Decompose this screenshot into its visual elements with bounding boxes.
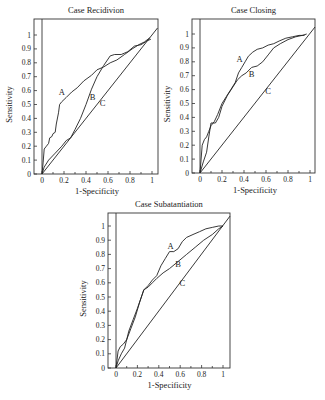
y-tick-label: 1 xyxy=(27,31,31,40)
x-tick-label: 0 xyxy=(198,175,202,184)
x-tick-label: 0.2 xyxy=(133,370,143,379)
y-tick-label: 0 xyxy=(101,364,105,373)
y-tick-label: 0.9 xyxy=(96,236,106,245)
curve-label-c: C xyxy=(100,98,106,108)
x-tick-label: 0.2 xyxy=(217,175,227,184)
roc-chart-3: Case Subatantiation00.10.20.30.40.50.60.… xyxy=(78,199,230,390)
x-tick-label: 0.4 xyxy=(81,176,91,185)
y-tick-label: 0.5 xyxy=(180,99,190,108)
curve-label-a: A xyxy=(167,241,174,251)
y-tick-label: 0.7 xyxy=(96,264,106,273)
curve-label-c: C xyxy=(265,86,271,96)
y-tick-label: 0.5 xyxy=(22,100,32,109)
y-tick-label: 0 xyxy=(185,169,189,178)
curve-label-a: A xyxy=(237,54,244,64)
y-tick-label: 0.2 xyxy=(180,141,190,150)
plot-frame xyxy=(34,19,158,174)
plot-frame xyxy=(192,19,315,173)
curve-label-b: B xyxy=(249,69,255,79)
y-tick-label: 0.6 xyxy=(180,85,190,94)
chart-title: Case Subatantiation xyxy=(135,199,204,209)
x-tick-label: 0.8 xyxy=(125,176,135,185)
x-axis-label: 1-Specificity xyxy=(233,185,278,195)
curve-label-b: B xyxy=(175,259,181,269)
y-tick-label: 0.7 xyxy=(180,71,190,80)
y-tick-label: 0.8 xyxy=(96,250,106,259)
y-tick-label: 0.4 xyxy=(96,307,106,316)
y-tick-label: 0.8 xyxy=(180,57,190,66)
y-tick-label: 0.8 xyxy=(22,58,32,67)
x-tick-label: 0.6 xyxy=(176,370,186,379)
roc-curve-a xyxy=(200,35,305,173)
y-tick-label: 0.1 xyxy=(96,349,106,358)
y-tick-label: 0.6 xyxy=(96,278,106,287)
x-tick-label: 0.2 xyxy=(59,176,69,185)
y-tick-label: 0.1 xyxy=(22,156,32,165)
y-tick-label: 0.3 xyxy=(180,127,190,136)
x-tick-label: 0.8 xyxy=(283,175,293,184)
y-tick-label: 0.2 xyxy=(96,335,106,344)
y-tick-label: 0.3 xyxy=(96,321,106,330)
curve-label-a: A xyxy=(59,87,66,97)
y-tick-label: 0.9 xyxy=(22,44,32,53)
roc-curve-c xyxy=(116,216,230,368)
roc-figure: Case Recidivion00.10.20.30.40.50.60.70.8… xyxy=(0,0,325,400)
curve-label-b: B xyxy=(90,92,96,102)
y-tick-label: 0.5 xyxy=(96,293,106,302)
y-tick-label: 1 xyxy=(101,222,105,231)
y-tick-label: 0.7 xyxy=(22,72,32,81)
x-tick-label: 0.4 xyxy=(154,370,164,379)
chart-title: Case Recidivion xyxy=(68,5,125,15)
x-tick-label: 0.6 xyxy=(261,175,271,184)
chart-title: Case Closing xyxy=(231,5,277,15)
y-tick-label: 0.2 xyxy=(22,142,32,151)
y-tick-label: 0.4 xyxy=(22,114,32,123)
y-tick-label: 0.3 xyxy=(22,128,32,137)
x-axis-label: 1-Specificity xyxy=(75,186,120,196)
x-tick-label: 0 xyxy=(114,370,118,379)
y-tick-label: 0.6 xyxy=(22,86,32,95)
y-axis-label: Sensitivity xyxy=(78,280,88,317)
x-tick-label: 0 xyxy=(40,176,44,185)
x-tick-label: 1 xyxy=(150,176,154,185)
y-axis-label: Sensitivity xyxy=(4,86,14,123)
y-tick-label: 0.1 xyxy=(180,155,190,164)
x-tick-label: 0.6 xyxy=(103,176,113,185)
x-tick-label: 1 xyxy=(221,370,225,379)
y-tick-label: 0.9 xyxy=(180,43,190,52)
x-axis-label: 1-Specificity xyxy=(148,380,193,390)
y-tick-label: 0 xyxy=(27,170,31,179)
y-tick-label: 1 xyxy=(185,30,189,39)
curve-label-c: C xyxy=(180,278,186,288)
x-tick-label: 1 xyxy=(308,175,312,184)
y-tick-label: 0.4 xyxy=(180,113,190,122)
x-tick-label: 0.4 xyxy=(239,175,249,184)
roc-chart-2: Case Closing00.10.20.30.40.50.60.70.80.9… xyxy=(162,5,315,195)
plot-frame xyxy=(108,213,230,368)
y-axis-label: Sensitivity xyxy=(162,85,172,122)
x-tick-label: 0.8 xyxy=(197,370,207,379)
roc-chart-1: Case Recidivion00.10.20.30.40.50.60.70.8… xyxy=(4,5,158,196)
